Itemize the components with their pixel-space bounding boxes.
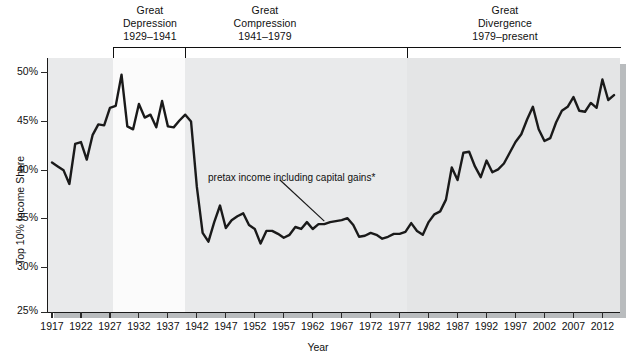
era-title-line1: Great bbox=[440, 4, 570, 17]
x-tick-1947 bbox=[225, 312, 226, 318]
x-tick-1952 bbox=[254, 312, 255, 318]
series-annotation-label: pretax income including capital gains* bbox=[208, 172, 375, 183]
y-tick-40 bbox=[41, 170, 48, 171]
era-label-great-depression: Great Depression 1929–1941 bbox=[95, 4, 205, 44]
era-title-line2: Depression bbox=[95, 17, 205, 30]
x-tick-2012 bbox=[602, 312, 603, 318]
era-title-line1: Great bbox=[205, 4, 325, 17]
x-axis-title: Year bbox=[283, 341, 353, 353]
x-tick-label-2012: 2012 bbox=[582, 320, 622, 332]
plot-shadow-right bbox=[620, 64, 626, 318]
annotation-leader-group bbox=[48, 58, 620, 312]
x-tick-1997 bbox=[515, 312, 516, 318]
x-axis-line bbox=[47, 312, 620, 313]
y-tick-35 bbox=[41, 218, 48, 219]
era-range: 1929–1941 bbox=[95, 30, 205, 43]
x-tick-2007 bbox=[573, 312, 574, 318]
era-bracket-rule bbox=[113, 47, 621, 48]
x-tick-1957 bbox=[283, 312, 284, 318]
x-tick-1987 bbox=[457, 312, 458, 318]
x-tick-1922 bbox=[80, 312, 81, 318]
y-tick-label-50: 50% bbox=[4, 65, 38, 77]
era-label-great-divergence: Great Divergence 1979–present bbox=[440, 4, 570, 44]
annotation-leader-line bbox=[280, 180, 324, 221]
era-range: 1979–present bbox=[440, 30, 570, 43]
chart-figure: Great Depression 1929–1941 Great Compres… bbox=[0, 0, 636, 361]
y-tick-50 bbox=[41, 72, 48, 73]
x-tick-1962 bbox=[312, 312, 313, 318]
y-tick-25 bbox=[41, 312, 48, 313]
era-title-line2: Divergence bbox=[440, 17, 570, 30]
x-tick-1927 bbox=[109, 312, 110, 318]
era-header-group: Great Depression 1929–1941 Great Compres… bbox=[0, 0, 636, 48]
era-title-line2: Compression bbox=[205, 17, 325, 30]
y-axis-line bbox=[47, 58, 48, 313]
x-tick-1932 bbox=[138, 312, 139, 318]
x-tick-1992 bbox=[486, 312, 487, 318]
x-tick-1942 bbox=[196, 312, 197, 318]
x-tick-1982 bbox=[428, 312, 429, 318]
x-tick-1967 bbox=[341, 312, 342, 318]
y-tick-label-25: 25% bbox=[4, 304, 38, 316]
plot-area bbox=[48, 58, 620, 312]
x-tick-1937 bbox=[167, 312, 168, 318]
era-label-great-compression: Great Compression 1941–1979 bbox=[205, 4, 325, 44]
era-range: 1941–1979 bbox=[205, 30, 325, 43]
y-tick-45 bbox=[41, 121, 48, 122]
x-tick-1917 bbox=[51, 312, 52, 318]
x-tick-2002 bbox=[544, 312, 545, 318]
y-tick-label-45: 45% bbox=[4, 114, 38, 126]
y-tick-30 bbox=[41, 267, 48, 268]
x-tick-1972 bbox=[370, 312, 371, 318]
y-axis-title: Top 10% Income Share bbox=[14, 156, 26, 265]
x-tick-1977 bbox=[399, 312, 400, 318]
era-title-line1: Great bbox=[95, 4, 205, 17]
